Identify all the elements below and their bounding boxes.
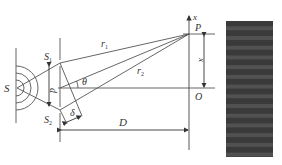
angle-label: θ	[82, 76, 87, 87]
rays-to-point	[60, 34, 189, 110]
slit-separation-label: d	[48, 88, 59, 94]
path1-label: r1	[101, 38, 108, 50]
wavefront-arcs	[16, 66, 38, 110]
origin-label: O	[195, 91, 202, 102]
distance-label: D	[118, 116, 127, 128]
source-label: S	[4, 82, 10, 94]
point-label: P	[194, 22, 201, 33]
angle-arc	[77, 81, 78, 88]
slit2-label: S2	[44, 114, 52, 126]
fringe-pattern	[226, 21, 273, 157]
path2-label: r2	[137, 65, 144, 77]
axis-label: x	[192, 12, 197, 22]
path-difference-label: δ	[70, 107, 75, 118]
double-slit-diagram: S S1 S2 d r1 r2 θ δ D	[0, 0, 282, 165]
position-label: x	[197, 57, 207, 62]
slit1-label: S1	[44, 51, 52, 63]
